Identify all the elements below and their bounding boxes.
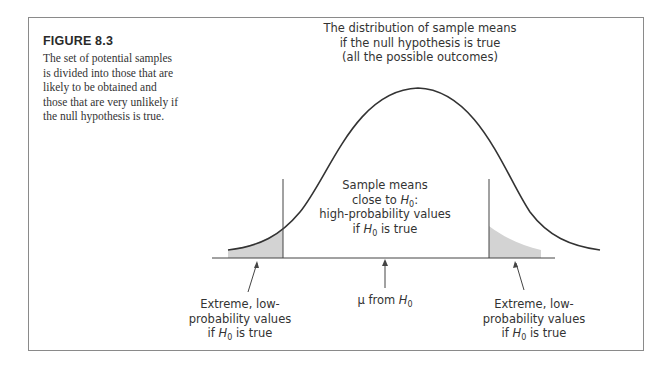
right-tail-label: Extreme, low- probability values if H0 i… [474, 297, 594, 341]
center-region-label: Sample means close to H0: high-probabili… [305, 178, 465, 236]
distribution-title: The distribution of sample means if the … [305, 21, 535, 65]
mean-label: μ from H0 [335, 293, 435, 308]
right-tail-region [489, 226, 541, 258]
mean-arrow-icon [382, 259, 388, 288]
left-tail-arrow-icon [248, 261, 259, 292]
right-tail-arrow-icon [513, 261, 524, 290]
left-tail-label: Extreme, low- probability values if H0 i… [180, 297, 300, 341]
